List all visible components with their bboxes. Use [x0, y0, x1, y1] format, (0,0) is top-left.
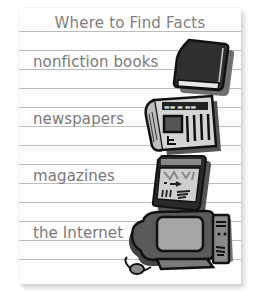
item-label-magazines: magazines	[33, 167, 115, 185]
svg-text:▬▬ ▬ ▬▬: ▬▬ ▬ ▬▬	[164, 103, 196, 110]
item-label-newspapers: newspapers	[33, 110, 124, 128]
book-icon	[171, 38, 237, 100]
newspaper-icon: ▬▬ ▬ ▬▬	[142, 94, 222, 156]
page-title: Where to Find Facts	[19, 14, 241, 32]
magazine-icon	[150, 152, 212, 214]
item-label-books: nonfiction books	[33, 53, 158, 71]
lined-paper: Where to Find Facts nonfiction books new…	[19, 8, 241, 284]
computer-icon	[121, 209, 239, 277]
item-label-internet: the Internet	[33, 224, 123, 242]
